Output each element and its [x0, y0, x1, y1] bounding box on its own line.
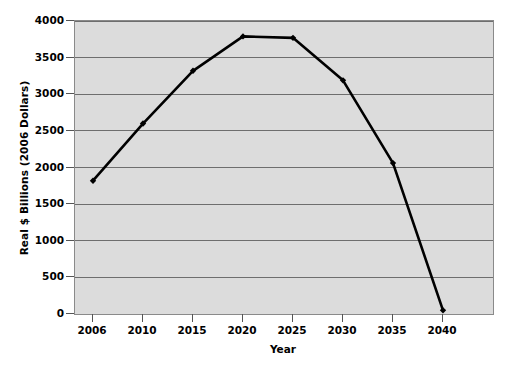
x-tick-label: 2040 [412, 325, 472, 336]
x-tick-mark [192, 314, 193, 322]
x-tick-mark [92, 314, 93, 322]
x-tick-mark [392, 314, 393, 322]
x-axis-tick-labels: 20062010201520202025203020352040 [0, 0, 516, 365]
chart-figure: Real $ Billions (2006 Dollars) 050010001… [0, 0, 516, 365]
x-tick-mark [342, 314, 343, 322]
x-tick-mark [242, 314, 243, 322]
x-axis-title: Year [74, 344, 492, 355]
x-tick-mark [142, 314, 143, 322]
x-tick-mark [292, 314, 293, 322]
x-tick-mark [442, 314, 443, 322]
